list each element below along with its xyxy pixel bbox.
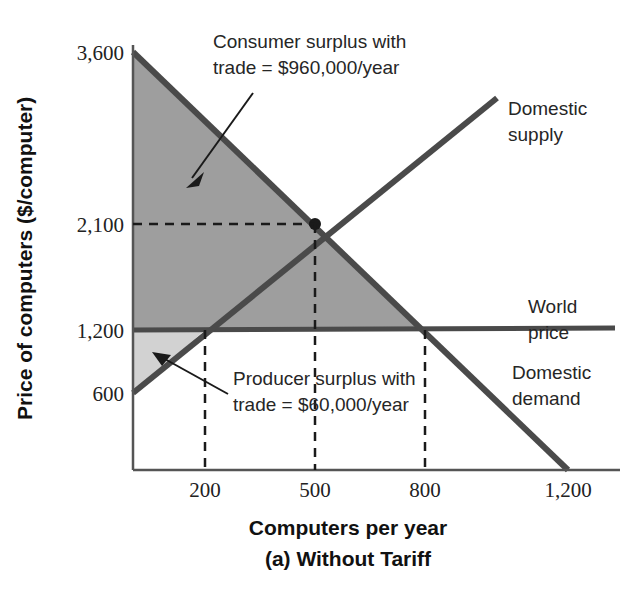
economics-surplus-chart: 3,600 2,100 1,200 600 200 500 800 1,200 … [0, 0, 637, 604]
x-axis-title: Computers per year [249, 516, 447, 539]
domestic-demand-label-line1: Domestic [512, 362, 591, 383]
figure-container: 3,600 2,100 1,200 600 200 500 800 1,200 … [0, 0, 637, 604]
y-tick-label-600: 600 [93, 382, 125, 406]
panel-title: (a) Without Tariff [265, 547, 432, 570]
y-tick-label-3600: 3,600 [77, 41, 124, 65]
x-tick-label-1200: 1,200 [544, 478, 591, 502]
consumer-surplus-annotation-line2: trade = $960,000/year [213, 57, 400, 78]
domestic-supply-label-line1: Domestic [508, 98, 587, 119]
x-tick-label-800: 800 [409, 478, 441, 502]
world-price-label-line1: World [528, 296, 577, 317]
y-tick-label-1200: 1,200 [77, 319, 124, 343]
producer-surplus-annotation-line2: trade = $60,000/year [233, 394, 410, 415]
x-tick-label-500: 500 [299, 478, 331, 502]
x-tick-label-200: 200 [189, 478, 221, 502]
producer-surplus-annotation-line1: Producer surplus with [233, 368, 416, 389]
y-tick-label-2100: 2,100 [77, 213, 124, 237]
domestic-demand-label-line2: demand [512, 388, 581, 409]
domestic-supply-label-line2: supply [508, 124, 563, 145]
world-price-label-line2: price [528, 322, 569, 343]
consumer-surplus-annotation-line1: Consumer surplus with [213, 31, 406, 52]
y-axis-title: Price of computers ($/computer) [13, 97, 36, 420]
producer-surplus-arrow-shaft [163, 358, 228, 394]
